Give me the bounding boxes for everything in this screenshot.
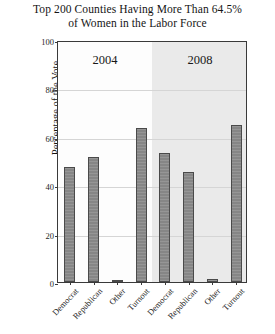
bar-series — [58, 42, 246, 282]
x-tick-mark — [141, 282, 142, 285]
x-tick-mark — [212, 282, 213, 285]
chart-title-line-1: Top 200 Counties Having More Than 64.5% — [0, 2, 275, 16]
bar-2008-republican — [183, 172, 194, 282]
chart-title-line-2: of Women in the Labor Force — [0, 16, 275, 30]
y-tick-label: 40 — [46, 182, 55, 192]
x-tick-mark — [236, 282, 237, 285]
y-tick-label: 60 — [46, 134, 55, 144]
bar-2004-democrat — [64, 167, 75, 282]
y-tick-mark — [55, 284, 58, 285]
y-tick-label: 20 — [46, 231, 55, 241]
bar-2008-turnout — [231, 125, 242, 282]
y-tick-label: 0 — [50, 279, 54, 289]
y-tick-label: 80 — [46, 85, 55, 95]
plot-area: 020406080100 2004 2008 DemocratRepublica… — [57, 41, 247, 283]
bar-2008-democrat — [159, 153, 170, 282]
y-tick-label: 100 — [41, 37, 54, 47]
x-axis-label-other: Other — [107, 286, 128, 307]
x-tick-mark — [165, 282, 166, 285]
x-axis-label-turnout: Turnout — [221, 286, 247, 313]
chart-title: Top 200 Counties Having More Than 64.5% … — [0, 2, 275, 30]
bar-2004-republican — [88, 157, 99, 282]
x-tick-mark — [117, 282, 118, 285]
x-tick-mark — [94, 282, 95, 285]
x-axis-label-other: Other — [202, 286, 223, 307]
chart-figure: Top 200 Counties Having More Than 64.5% … — [0, 0, 275, 334]
x-tick-mark — [70, 282, 71, 285]
x-tick-mark — [189, 282, 190, 285]
bar-2004-turnout — [136, 128, 147, 282]
